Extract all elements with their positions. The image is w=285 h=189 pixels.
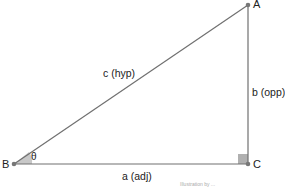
adjacent-label: a (adj) bbox=[122, 170, 152, 182]
angle-theta-label: θ bbox=[31, 151, 37, 162]
hypotenuse-line bbox=[14, 5, 248, 164]
hypotenuse-label: c (hyp) bbox=[103, 67, 135, 79]
opposite-label: b (opp) bbox=[252, 86, 285, 98]
vertex-c-label: C bbox=[253, 158, 261, 170]
vertex-a-dot bbox=[246, 3, 251, 8]
vertex-b-dot bbox=[12, 162, 17, 167]
caption: Illustration by ... bbox=[180, 181, 215, 187]
vertex-c-dot bbox=[246, 162, 251, 167]
vertex-b-label: B bbox=[2, 158, 9, 170]
right-triangle-diagram: A B C c (hyp) b (opp) a (adj) θ Illustra… bbox=[0, 0, 285, 189]
vertex-a-label: A bbox=[253, 0, 261, 10]
